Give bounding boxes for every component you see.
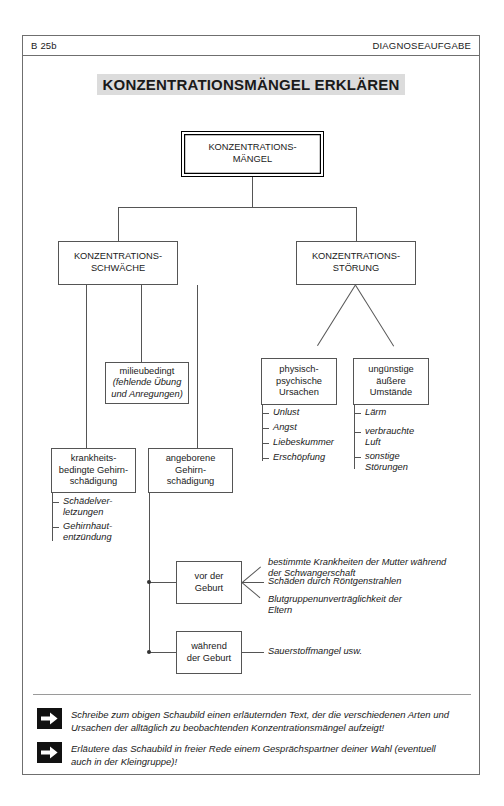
node-physisch-psychische-ursachen: physisch- psychische Ursachen bbox=[261, 358, 337, 405]
edge-schwaeche-right bbox=[197, 285, 198, 448]
node-angeboren-line1: angeborene bbox=[166, 453, 216, 465]
list-tick bbox=[52, 527, 59, 528]
node-umstaende-line3: Umstände bbox=[370, 387, 412, 399]
list-item-line1: Gehirnhaut- bbox=[63, 521, 112, 531]
list-item: Gehirnhaut- entzündung bbox=[63, 521, 112, 543]
page-title: KONZENTRATIONSMÄNGEL ERKLÄREN bbox=[23, 76, 479, 94]
node-vor-der-geburt: vor der Geburt bbox=[176, 561, 242, 604]
node-waehrend-der-geburt: während der Geburt bbox=[176, 631, 242, 674]
list-tick bbox=[262, 458, 269, 459]
list-item-line1: verbrauchte bbox=[365, 426, 414, 436]
node-stoerung-line1: KONZENTRATIONS- bbox=[312, 251, 400, 263]
edge-angeboren-spine bbox=[149, 493, 150, 652]
edge-to-schwaeche bbox=[118, 207, 119, 241]
list-item-line2: Eltern bbox=[268, 605, 292, 615]
node-krankheit-line2: bedingte Gehirn- bbox=[59, 465, 128, 477]
list-item: sonstige Störungen bbox=[365, 451, 408, 473]
list-item-line1: Schädelver- bbox=[63, 496, 112, 506]
list-tick bbox=[262, 443, 269, 444]
node-angeborene-gehirnschaedigung: angeborene Gehirn- schädigung bbox=[148, 448, 233, 493]
edge-to-waehrend bbox=[149, 652, 176, 653]
edge-waehrend-item bbox=[242, 652, 264, 653]
list-tick bbox=[354, 432, 361, 433]
node-milieu-line3: und Anregungen) bbox=[111, 389, 183, 401]
list-item: Blutgruppenunverträglichkeit der Eltern bbox=[268, 594, 402, 616]
edge-stoerung-right bbox=[355, 285, 394, 347]
node-umstaende-line1: ungünstige bbox=[368, 364, 414, 376]
task-item: Erläutere das Schaubild in freier Rede e… bbox=[37, 742, 457, 768]
list-tick bbox=[262, 413, 269, 414]
fan-line bbox=[242, 567, 261, 583]
list-item-line2: Störungen bbox=[365, 462, 408, 472]
node-angeboren-line2: Gehirn- bbox=[175, 465, 206, 477]
edge-dot bbox=[147, 580, 151, 584]
node-unguenstige-aeussere-umstaende: ungünstige äußere Umstände bbox=[353, 358, 429, 405]
node-krankheit-line3: schädigung bbox=[70, 476, 118, 488]
list-item: Sauerstoffmangel usw. bbox=[268, 646, 362, 657]
edge-stoerung-left bbox=[317, 284, 356, 346]
task-text-line1: Erläutere das Schaubild in freier Rede e… bbox=[71, 743, 392, 754]
list-item: Lärm bbox=[365, 407, 386, 418]
list-item-line2: letzungen bbox=[63, 507, 103, 517]
list-item: Schädelver- letzungen bbox=[63, 496, 112, 518]
edge-schwaeche-mid bbox=[141, 285, 142, 362]
node-krankheit-line1: krankheits- bbox=[71, 453, 116, 465]
list-tick bbox=[354, 413, 361, 414]
list-tick bbox=[354, 457, 361, 458]
edge-to-stoerung bbox=[356, 207, 357, 241]
list-item-line2: entzündung bbox=[63, 532, 112, 542]
fan-line bbox=[242, 582, 264, 583]
task-item: Schreibe zum obigen Schaubild einen erlä… bbox=[37, 708, 457, 734]
list-tick bbox=[262, 428, 269, 429]
worksheet-page: B 25b DIAGNOSEAUFGABE KONZENTRATIONSMÄNG… bbox=[22, 35, 480, 775]
list-spine bbox=[354, 405, 355, 469]
page-title-text: KONZENTRATIONSMÄNGEL ERKLÄREN bbox=[97, 74, 406, 95]
task-text-line1: Schreibe zum obigen Schaubild einen erlä… bbox=[71, 709, 430, 720]
edge-schwaeche-left bbox=[86, 285, 87, 448]
list-item: Liebeskummer bbox=[273, 437, 334, 448]
arrow-right-icon bbox=[37, 708, 62, 729]
list-item: Angst bbox=[273, 422, 297, 433]
node-milieu-line1: milieubedingt bbox=[120, 366, 175, 378]
node-konzentrationsschwaeche: KONZENTRATIONS- SCHWÄCHE bbox=[58, 241, 178, 285]
list-spine bbox=[52, 493, 53, 541]
node-schwaeche-line2: SCHWÄCHE bbox=[91, 263, 145, 275]
node-waehrend-line1: während bbox=[191, 641, 227, 653]
header-task-type: DIAGNOSEAUFGABE bbox=[372, 40, 471, 51]
list-item: Erschöpfung bbox=[273, 452, 325, 463]
list-krankheitsbedingte: Schädelver- letzungen Gehirnhaut- entzün… bbox=[52, 493, 142, 543]
arrow-right-icon bbox=[37, 742, 62, 763]
task-text: Schreibe zum obigen Schaubild einen erlä… bbox=[71, 708, 457, 734]
node-angeboren-line3: schädigung bbox=[167, 476, 215, 488]
node-milieubedingt: milieubedingt (fehlende Übung und Anregu… bbox=[105, 362, 189, 404]
node-waehrend-line2: der Geburt bbox=[187, 653, 231, 665]
node-vorgeburt-line1: vor der bbox=[195, 571, 224, 583]
node-physisch-line3: Ursachen bbox=[279, 387, 319, 399]
list-item: Unlust bbox=[273, 407, 299, 418]
list-item: Schäden durch Röntgenstrahlen bbox=[268, 576, 401, 587]
list-unguenstige-umstaende: Lärm verbrauchte Luft sonstige Störungen bbox=[354, 405, 444, 473]
header-code: B 25b bbox=[31, 40, 57, 51]
node-krankheitsbedingte-gehirnschaedigung: krankheits- bedingte Gehirn- schädigung bbox=[51, 448, 136, 493]
node-schwaeche-line1: KONZENTRATIONS- bbox=[74, 251, 162, 263]
task-text: Erläutere das Schaubild in freier Rede e… bbox=[71, 742, 457, 768]
node-root-line2: MÄNGEL bbox=[233, 154, 272, 166]
list-item-line1: bestimmte Krankheiten der Mutter während bbox=[268, 557, 446, 567]
list-item: verbrauchte Luft bbox=[365, 426, 414, 448]
edge-root-split bbox=[118, 207, 356, 208]
fan-line bbox=[241, 582, 260, 598]
list-item-line2: Luft bbox=[365, 437, 381, 447]
node-stoerung-line2: STÖRUNG bbox=[333, 263, 380, 275]
node-konzentrationsstoerung: KONZENTRATIONS- STÖRUNG bbox=[296, 241, 416, 285]
node-konzentrationsmaengel: KONZENTRATIONS- MÄNGEL bbox=[181, 131, 324, 177]
page-header: B 25b DIAGNOSEAUFGABE bbox=[23, 36, 479, 56]
node-physisch-line1: physisch- bbox=[279, 364, 318, 376]
footer-divider bbox=[33, 694, 471, 695]
node-vorgeburt-line2: Geburt bbox=[195, 583, 223, 595]
edge-root-down bbox=[252, 177, 253, 207]
list-tick bbox=[52, 502, 59, 503]
node-physisch-line2: psychische bbox=[276, 376, 322, 388]
list-item-line1: sonstige bbox=[365, 451, 400, 461]
node-milieu-line2: (fehlende Übung bbox=[113, 377, 182, 389]
list-item-line1: Blutgruppenunverträglichkeit der bbox=[268, 594, 402, 604]
